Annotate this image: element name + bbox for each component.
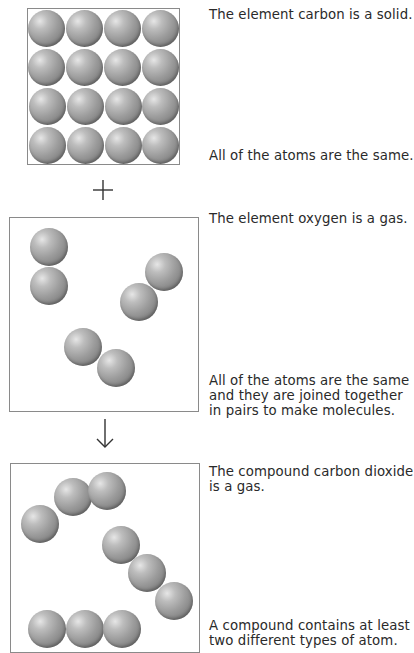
oxygen-atom xyxy=(30,228,68,266)
co2-caption-top-line-2: is a gas. xyxy=(209,479,265,494)
co2-atom xyxy=(21,505,59,543)
carbon-caption-bottom: All of the atoms are the same. xyxy=(209,148,414,163)
carbon-dioxide-panel xyxy=(10,463,200,653)
carbon-atom xyxy=(105,88,142,125)
oxygen-gas-panel xyxy=(9,217,199,412)
co2-caption-top-line-1: The compound carbon dioxide xyxy=(209,464,413,479)
plus-icon xyxy=(92,179,114,201)
down-arrow-icon xyxy=(95,418,115,449)
co2-caption-bottom-line-1: A compound contains at least xyxy=(209,618,410,633)
carbon-atom xyxy=(104,49,141,86)
oxygen-atom xyxy=(30,267,68,305)
carbon-atom xyxy=(142,10,179,47)
carbon-atom xyxy=(104,10,141,47)
oxygen-caption-bottom-line-3: in pairs to make molecules. xyxy=(209,403,395,418)
co2-atom xyxy=(88,472,126,510)
co2-caption-bottom-line-2: two different types of atom. xyxy=(209,633,398,648)
carbon-atom xyxy=(142,127,179,164)
co2-atom xyxy=(103,610,141,648)
co2-atom xyxy=(28,610,66,648)
carbon-atom xyxy=(67,127,104,164)
oxygen-atom xyxy=(120,283,158,321)
carbon-atom xyxy=(66,10,103,47)
carbon-atom xyxy=(28,49,65,86)
oxygen-atom xyxy=(145,253,183,291)
carbon-solid-panel xyxy=(27,8,180,165)
oxygen-atom xyxy=(97,349,135,387)
carbon-atom xyxy=(67,88,104,125)
carbon-caption-top: The element carbon is a solid. xyxy=(209,7,413,22)
oxygen-caption-bottom-line-2: and they are joined together xyxy=(209,388,403,403)
carbon-atom xyxy=(28,10,65,47)
oxygen-caption-bottom-line-1: All of the atoms are the same xyxy=(209,373,409,388)
co2-atom xyxy=(155,582,193,620)
carbon-atom xyxy=(66,49,103,86)
oxygen-caption-top: The element oxygen is a gas. xyxy=(209,211,408,226)
co2-atom xyxy=(66,610,104,648)
co2-atom xyxy=(54,478,92,516)
oxygen-atom xyxy=(64,328,102,366)
carbon-atom xyxy=(142,88,179,125)
carbon-atom xyxy=(29,127,66,164)
carbon-atom xyxy=(105,127,142,164)
carbon-atom xyxy=(29,88,66,125)
carbon-atom xyxy=(142,49,179,86)
